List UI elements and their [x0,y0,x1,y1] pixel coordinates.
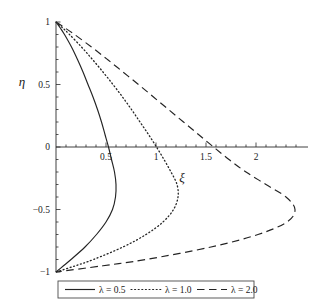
y-axis-title: η [19,74,25,89]
legend-label: λ = 0.5 [99,285,126,295]
x-tick-label: 1 [154,152,159,162]
chart-canvas: 0.511.5210.50−0.5−1 η ξ λ = 0.5λ = 1.0λ … [0,0,312,306]
legend-label: λ = 2.0 [231,285,258,295]
axes-group [56,22,308,272]
x-tick-label: 2 [254,152,259,162]
y-tick-label: −0.5 [33,205,50,215]
y-tick-label: 0.5 [38,80,50,90]
legend: λ = 0.5λ = 1.0λ = 2.0 [58,281,258,298]
y-tick-label: 0 [45,142,50,152]
x-axis-title: ξ [179,170,185,185]
y-tick-label: −1 [40,267,50,277]
x-tick-label: 1.5 [200,152,212,162]
chart-figure: 0.511.5210.50−0.5−1 η ξ λ = 0.5λ = 1.0λ … [0,0,312,306]
legend-label: λ = 1.0 [165,285,192,295]
y-tick-label: 1 [45,17,50,27]
